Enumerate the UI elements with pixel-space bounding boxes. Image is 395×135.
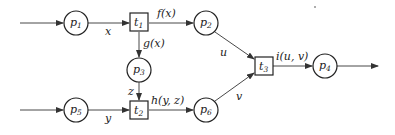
edge-label-g: g(x): [143, 37, 165, 50]
edge-label-v: v: [236, 90, 243, 103]
edge-p6-t3: [215, 73, 254, 101]
place-p1: p1: [64, 11, 88, 35]
edge-label-x: x: [105, 25, 112, 38]
edge-label-i: i(u, v): [276, 50, 308, 63]
petri-net-diagram: p1 p2 p3 p4 p5 p6 t1 t2 t3 x f(x) g(x) z…: [0, 0, 395, 135]
stray-dot: [314, 6, 316, 8]
edge-label-h: h(y, z): [151, 94, 184, 107]
transition-t1: t1: [130, 13, 148, 31]
edge-label-y: y: [104, 112, 112, 125]
edge-label-u: u: [220, 46, 227, 59]
place-p2: p2: [194, 11, 218, 35]
place-p6: p6: [194, 98, 218, 122]
place-p5: p5: [64, 98, 88, 122]
edge-label-z: z: [127, 85, 134, 98]
place-p3: p3: [127, 58, 151, 82]
place-p4: p4: [313, 54, 337, 78]
transition-t3: t3: [255, 57, 273, 75]
edge-label-f: f(x): [156, 7, 176, 20]
transition-t2: t2: [130, 101, 148, 119]
